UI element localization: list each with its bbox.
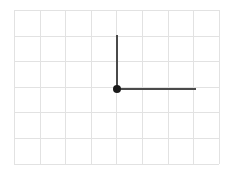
figure-canvas — [0, 0, 228, 171]
vertex-dot — [113, 85, 121, 93]
triangle-grid-figure — [0, 0, 228, 171]
